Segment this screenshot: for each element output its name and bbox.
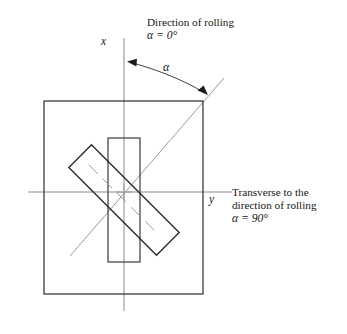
diagram-canvas <box>0 0 347 334</box>
angle-alpha-label: α <box>163 60 169 75</box>
rolling-direction-title: Direction of rolling <box>147 16 234 29</box>
rolling-direction-diagram: Direction of rolling α = 0° Transverse t… <box>0 0 347 334</box>
y-axis-label: y <box>209 193 214 207</box>
transverse-direction-label: Transverse to the direction of rolling α… <box>232 186 317 226</box>
rotated-specimen-axis-line <box>70 78 224 256</box>
alpha-ninety-value: α = 90° <box>232 212 317 226</box>
transverse-line-1: Transverse to the <box>232 186 317 199</box>
rolling-direction-label: Direction of rolling α = 0° <box>147 16 234 43</box>
angle-arc-arrowhead-x <box>127 59 137 67</box>
alpha-zero-value: α = 0° <box>147 29 234 43</box>
angle-arc-arrowhead-rotated <box>198 85 208 95</box>
transverse-line-2: direction of rolling <box>232 199 317 212</box>
x-axis-label: x <box>101 35 106 49</box>
